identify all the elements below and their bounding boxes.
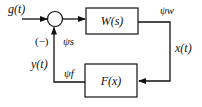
output-label: x(t) (174, 41, 192, 55)
forward-block-label: W(s) (101, 14, 124, 28)
feedback-block-label: F(x) (100, 74, 122, 88)
output-path (138, 22, 170, 81)
block-diagram: g(t) W(s) ψw x(t) F(x) ψf y(t) (−) ψs (0, 0, 202, 107)
minus-sign-label: (−) (35, 35, 49, 48)
summing-junction (48, 12, 63, 27)
input-label: g(t) (8, 2, 25, 16)
psi-f-label: ψf (64, 67, 76, 79)
feedback-signal-label: y(t) (30, 57, 48, 71)
psi-s-label: ψs (63, 35, 74, 47)
psi-w-label: ψw (160, 4, 175, 16)
